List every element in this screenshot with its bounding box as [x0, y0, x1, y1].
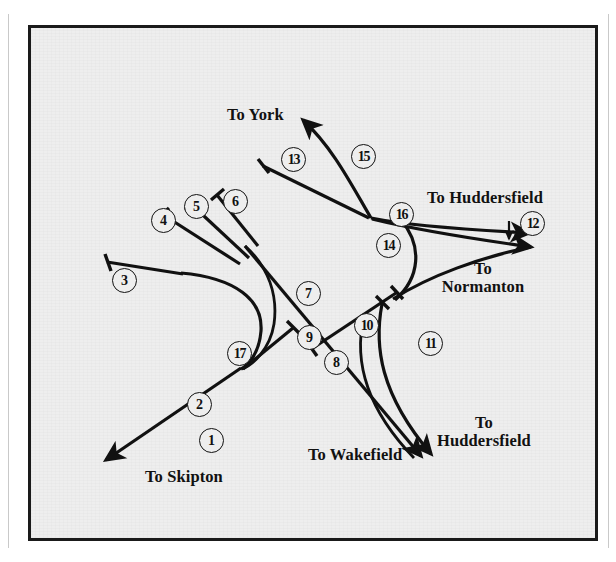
destination-label-huddersfield-southeast: To Huddersfield: [419, 414, 549, 450]
figure-page: To York To Huddersfield To Normanton To …: [0, 0, 616, 562]
route-number-6: 6: [223, 189, 248, 214]
page-gutter-rule-left: [8, 14, 9, 548]
route-number-9: 9: [297, 325, 322, 350]
route-number-17: 17: [227, 341, 252, 366]
buffer-stop-route-6: [211, 189, 224, 200]
destination-label-normanton: To Normanton: [423, 260, 543, 296]
route-number-4: 4: [151, 208, 176, 233]
route-number-8: 8: [324, 350, 349, 375]
route-number-1: 1: [199, 428, 224, 453]
destination-label-skipton: To Skipton: [145, 468, 223, 486]
diagram-frame: To York To Huddersfield To Normanton To …: [28, 25, 598, 541]
route-number-13: 13: [281, 147, 306, 172]
route-number-16: 16: [389, 202, 414, 227]
route-number-12: 12: [520, 211, 545, 236]
page-gutter-rule-right: [608, 14, 609, 548]
route-number-2: 2: [187, 392, 212, 417]
track-route-13: [263, 166, 369, 218]
route-number-3: 3: [112, 268, 137, 293]
route-number-10: 10: [354, 313, 379, 338]
route-number-7: 7: [296, 281, 321, 306]
route-number-14: 14: [376, 233, 401, 258]
destination-label-huddersfield-northeast: To Huddersfield: [427, 189, 543, 207]
destination-label-york: To York: [227, 106, 284, 124]
route-number-5: 5: [184, 194, 209, 219]
buffer-stop-route-13: [258, 159, 269, 173]
route-number-11: 11: [418, 331, 443, 356]
route-number-15: 15: [351, 144, 376, 169]
destination-label-wakefield: To Wakefield: [308, 446, 402, 464]
